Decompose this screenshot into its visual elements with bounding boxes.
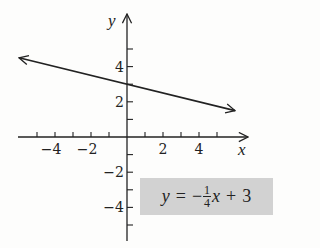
eq-fraction: 1 4 <box>203 184 211 209</box>
y-axis-label: y <box>106 11 116 30</box>
x-axis-label: x <box>237 140 246 159</box>
eq-const: 3 <box>242 186 251 207</box>
eq-minus: − <box>192 186 202 207</box>
x-tick-label: 2 <box>159 141 168 157</box>
eq-equals: = <box>176 186 186 207</box>
eq-lhs: y <box>162 186 170 207</box>
eq-var: x <box>212 186 220 207</box>
y-tick-label: 4 <box>115 59 124 75</box>
equation-label: y = − 1 4 x + 3 <box>140 178 273 215</box>
x-tick-label: −2 <box>77 141 98 157</box>
y-tick-label: 2 <box>115 94 124 110</box>
x-tick-label: −4 <box>41 141 62 157</box>
eq-plus: + <box>226 186 236 207</box>
x-tick-label: 4 <box>195 141 204 157</box>
y-tick-label: −2 <box>103 164 124 180</box>
eq-den: 4 <box>204 197 210 209</box>
y-tick-label: −4 <box>103 199 124 215</box>
